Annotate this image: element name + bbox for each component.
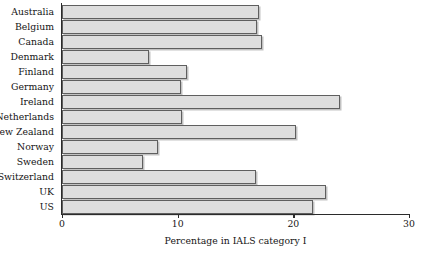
bar-row-us bbox=[62, 199, 409, 214]
bar-row-germany bbox=[62, 79, 409, 94]
bar-australia bbox=[62, 5, 259, 19]
bar-row-uk bbox=[62, 184, 409, 199]
x-tick-label-20: 20 bbox=[287, 219, 299, 228]
y-axis-label-germany: Germany bbox=[0, 79, 58, 94]
y-axis-label-australia: Australia bbox=[0, 4, 58, 19]
bar-canada bbox=[62, 35, 262, 49]
bar-row-canada bbox=[62, 34, 409, 49]
bar-row-norway bbox=[62, 139, 409, 154]
bar-row-switzerland bbox=[62, 169, 409, 184]
y-axis-label-uk: UK bbox=[0, 184, 58, 199]
bar-sweden bbox=[62, 155, 143, 169]
bar-finland bbox=[62, 65, 187, 79]
plot-area bbox=[62, 4, 409, 214]
bar-us bbox=[62, 200, 313, 214]
bar-denmark bbox=[62, 50, 149, 64]
bar-row-denmark bbox=[62, 49, 409, 64]
bar-row-australia bbox=[62, 4, 409, 19]
y-axis-line bbox=[61, 3, 62, 215]
y-axis-label-ireland: Ireland bbox=[0, 94, 58, 109]
bar-row-belgium bbox=[62, 19, 409, 34]
bar-uk bbox=[62, 185, 326, 199]
bars-container bbox=[62, 4, 409, 214]
bar-ireland bbox=[62, 95, 340, 109]
y-axis-label-denmark: Denmark bbox=[0, 49, 58, 64]
bar-row-finland bbox=[62, 64, 409, 79]
bar-row-netherlands bbox=[62, 109, 409, 124]
y-axis-label-canada: Canada bbox=[0, 34, 58, 49]
bar-row-ireland bbox=[62, 94, 409, 109]
bar-new-zealand bbox=[62, 125, 296, 139]
x-tick-label-10: 10 bbox=[172, 219, 184, 228]
y-axis-label-netherlands: Netherlands bbox=[0, 109, 58, 124]
y-axis-label-new-zealand: New Zealand bbox=[0, 124, 58, 139]
bar-norway bbox=[62, 140, 158, 154]
bar-row-sweden bbox=[62, 154, 409, 169]
bar-germany bbox=[62, 80, 181, 94]
x-axis-line bbox=[61, 214, 410, 215]
bar-row-new-zealand bbox=[62, 124, 409, 139]
x-tick-label-0: 0 bbox=[59, 219, 65, 228]
y-axis-label-finland: Finland bbox=[0, 64, 58, 79]
y-axis-category-labels: Australia Belgium Canada Denmark Finland… bbox=[0, 4, 58, 214]
x-axis-title: Percentage in IALS category I bbox=[62, 236, 409, 245]
bar-switzerland bbox=[62, 170, 256, 184]
y-axis-label-norway: Norway bbox=[0, 139, 58, 154]
y-axis-label-switzerland: Switzerland bbox=[0, 169, 58, 184]
x-tick-label-30: 30 bbox=[403, 219, 415, 228]
bar-chart: Australia Belgium Canada Denmark Finland… bbox=[0, 0, 423, 259]
y-axis-label-belgium: Belgium bbox=[0, 19, 58, 34]
bar-belgium bbox=[62, 20, 257, 34]
y-axis-label-sweden: Sweden bbox=[0, 154, 58, 169]
y-axis-label-us: US bbox=[0, 199, 58, 214]
bar-netherlands bbox=[62, 110, 182, 124]
